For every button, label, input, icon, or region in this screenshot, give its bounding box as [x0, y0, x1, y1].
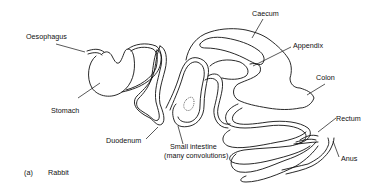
label-stomach: Stomach	[51, 106, 79, 115]
label-rectum: Rectum	[336, 114, 361, 123]
rectum	[294, 135, 318, 144]
label-appendix: Appendix	[293, 41, 323, 50]
rabbit-gut-diagram: Oesophagus Stomach Duodenum Small intest…	[0, 0, 384, 193]
label-colon: Colon	[316, 73, 335, 82]
label-duodenum: Duodenum	[106, 136, 141, 145]
small-intestine	[166, 58, 230, 128]
duodenum	[134, 46, 166, 125]
caption-text: Rabbit	[48, 168, 69, 177]
label-anus: Anus	[341, 154, 358, 163]
leader-lines	[56, 19, 339, 157]
label-caecum: Caecum	[252, 9, 279, 18]
caption-letter: (a)	[24, 168, 33, 177]
stomach	[89, 44, 162, 96]
label-oesophagus: Oesophagus	[26, 32, 67, 41]
label-small-intestine-line1: Small intestine	[170, 142, 217, 151]
label-small-intestine-line2: (many convolutions)	[164, 151, 228, 160]
anus	[282, 138, 334, 174]
oesophagus	[87, 49, 104, 55]
